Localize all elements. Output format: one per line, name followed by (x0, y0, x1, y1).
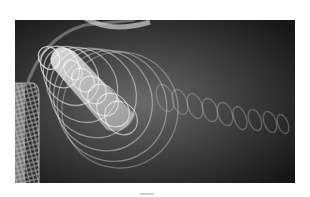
spiral-render-svg (15, 20, 295, 183)
render-image (15, 20, 295, 183)
left-mesh-tube (15, 83, 39, 183)
caption-mark (140, 193, 154, 195)
